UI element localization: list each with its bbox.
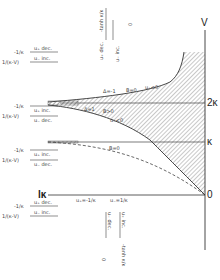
- lower-b-label: B>0: [103, 109, 114, 114]
- v-axis-label: V: [201, 18, 208, 28]
- baseline-left-label: u₊=-1/κ: [76, 198, 96, 203]
- upper-b-label: B=0: [126, 88, 137, 93]
- tick-0-label: 0: [207, 190, 213, 200]
- upper-u-label: u₊<0: [145, 85, 158, 90]
- lower-delta-label: Δ=1: [84, 107, 95, 112]
- upper-delta-label: Δ=-1: [103, 89, 116, 94]
- tick-k-label: κ: [207, 137, 212, 147]
- tick-2k-label: 2κ: [207, 98, 218, 108]
- dashed-b-label: B=0: [109, 146, 120, 151]
- phase-diagram: [0, 0, 220, 280]
- lower-u-label: u₋<0: [110, 118, 123, 123]
- baseline-right-label: u₋=1/κ: [110, 198, 128, 203]
